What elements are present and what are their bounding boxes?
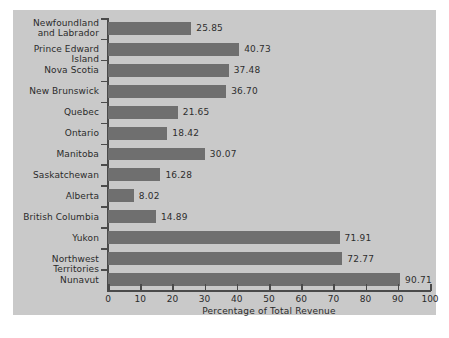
x-axis-tick: [269, 284, 271, 291]
x-axis-tick: [172, 284, 174, 291]
x-axis-tick: [333, 284, 335, 291]
y-axis-tick: [101, 269, 108, 271]
bar-row: 37.48: [108, 64, 430, 77]
bar-row: 30.07: [108, 148, 430, 161]
category-label: Ontario: [65, 128, 99, 138]
bar: [108, 64, 229, 77]
category-label: New Brunswick: [29, 86, 99, 96]
x-axis-tick-label: 70: [328, 294, 339, 304]
bar-value-label: 8.02: [139, 191, 160, 201]
bar-value-label: 16.28: [165, 170, 192, 180]
y-axis-tick: [101, 206, 108, 208]
category-label: Nova Scotia: [44, 65, 99, 75]
bar: [108, 127, 167, 140]
bar-row: 14.89: [108, 210, 430, 223]
category-label: Saskatchewan: [33, 170, 99, 180]
category-axis-labels: Newfoundland and LabradorPrince Edward I…: [13, 18, 103, 290]
x-axis-title: Percentage of Total Revenue: [108, 306, 430, 316]
bar: [108, 148, 205, 161]
bar-row: 36.70: [108, 85, 430, 98]
x-axis-tick: [108, 284, 110, 291]
x-axis-tick: [430, 284, 432, 291]
y-axis-tick: [101, 39, 108, 41]
y-axis-tick: [101, 185, 108, 187]
y-axis-tick: [101, 144, 108, 146]
category-label: Alberta: [66, 191, 99, 201]
bar-value-label: 21.65: [183, 107, 210, 117]
bar-row: 16.28: [108, 168, 430, 181]
x-axis-tick: [205, 284, 207, 291]
bar: [108, 189, 134, 202]
bar-value-label: 25.85: [196, 23, 223, 33]
category-label: Nunavut: [60, 275, 99, 285]
x-axis-tick: [398, 284, 400, 291]
bar-value-label: 40.73: [244, 44, 271, 54]
bar-value-label: 72.77: [347, 254, 374, 264]
category-label: British Columbia: [23, 212, 99, 222]
bar-value-label: 36.70: [231, 86, 258, 96]
x-axis-tick-label: 0: [105, 294, 111, 304]
x-axis-tick: [140, 284, 142, 291]
bar-row: 25.85: [108, 22, 430, 35]
plot-area: 25.8540.7337.4836.7021.6518.4230.0716.28…: [108, 18, 430, 290]
bar: [108, 210, 156, 223]
bar-row: 8.02: [108, 189, 430, 202]
bar: [108, 168, 160, 181]
y-axis-tick: [101, 81, 108, 83]
y-axis-tick: [101, 164, 108, 166]
bar: [108, 106, 178, 119]
y-axis-tick: [101, 248, 108, 250]
y-axis-tick: [101, 18, 108, 20]
bar: [108, 231, 340, 244]
x-axis-tick-label: 80: [360, 294, 371, 304]
x-axis-tick: [301, 284, 303, 291]
category-label: Northwest Territories: [13, 254, 99, 274]
y-axis-tick: [101, 60, 108, 62]
bar-value-label: 71.91: [345, 233, 372, 243]
bar: [108, 43, 239, 56]
x-axis-tick-label: 60: [295, 294, 306, 304]
x-axis-tick-label: 20: [167, 294, 178, 304]
x-axis-tick-label: 40: [231, 294, 242, 304]
x-axis-tick-label: 10: [134, 294, 145, 304]
category-label: Prince Edward Island: [13, 44, 99, 64]
bar-row: 18.42: [108, 127, 430, 140]
bar: [108, 273, 400, 286]
x-axis-tick: [366, 284, 368, 291]
bar: [108, 252, 342, 265]
bar-row: 71.91: [108, 231, 430, 244]
x-axis-tick-label: 100: [421, 294, 438, 304]
bar-value-label: 90.71: [405, 275, 432, 285]
x-axis-tick-label: 30: [199, 294, 210, 304]
bar-row: 40.73: [108, 43, 430, 56]
y-axis-tick: [101, 123, 108, 125]
bar-value-label: 14.89: [161, 212, 188, 222]
category-label: Manitoba: [56, 149, 99, 159]
x-axis-tick-label: 50: [263, 294, 274, 304]
bar-value-label: 30.07: [210, 149, 237, 159]
category-label: Newfoundland and Labrador: [33, 18, 99, 38]
bar: [108, 22, 191, 35]
y-axis-tick: [101, 227, 108, 229]
category-label: Quebec: [64, 107, 99, 117]
bar-row: 72.77: [108, 252, 430, 265]
bar-value-label: 37.48: [234, 65, 261, 75]
category-label: Yukon: [72, 233, 99, 243]
y-axis-tick: [101, 102, 108, 104]
bar: [108, 85, 226, 98]
bar-chart-figure: Newfoundland and LabradorPrince Edward I…: [13, 10, 436, 315]
bar-value-label: 18.42: [172, 128, 199, 138]
x-axis-tick: [237, 284, 239, 291]
bar-row: 21.65: [108, 106, 430, 119]
x-axis-tick-label: 90: [392, 294, 403, 304]
